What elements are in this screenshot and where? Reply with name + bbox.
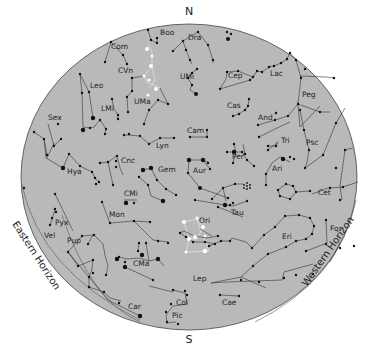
constellation-label-cam: Cam	[187, 126, 204, 135]
constellation-label-vel: Vel	[44, 231, 55, 240]
constellation-label-and: And	[258, 113, 273, 122]
constellation-label-per: Per	[232, 152, 245, 161]
constellation-label-boo: Boo	[160, 28, 175, 37]
constellation-label-car: Car	[128, 302, 142, 311]
constellation-label-cnc: Cnc	[121, 156, 135, 165]
constellation-label-eri: Eri	[282, 232, 292, 241]
constellation-label-pyx: Pyx	[55, 218, 69, 227]
constellation-label-peg: Peg	[302, 90, 316, 99]
constellation-label-mon: Mon	[109, 210, 125, 219]
constellation-label-aur: Aur	[193, 166, 207, 175]
constellation-label-leo: Leo	[90, 81, 104, 90]
constellation-label-dra: Dra	[188, 33, 201, 42]
constellation-label-lep: Lep	[193, 274, 207, 283]
constellation-label-cae: Cae	[222, 298, 237, 307]
star-chart: BooDraComCVnUMiLeoUMaLMiCepLacPegCasAndS…	[0, 0, 377, 345]
constellation-label-lac: Lac	[270, 69, 283, 78]
constellation-label-sex: Sex	[48, 113, 62, 122]
constellation-label-ari: Ari	[272, 164, 282, 173]
constellation-label-ori: Ori	[199, 216, 210, 225]
constellation-label-umi: UMi	[180, 72, 194, 81]
constellation-label-pup: Pup	[67, 236, 81, 245]
constellation-label-cas: Cas	[227, 101, 241, 110]
constellation-label-lmi: LMi	[101, 104, 114, 113]
constellation-label-tri: Tri	[280, 136, 290, 145]
constellation-label-lyn: Lyn	[156, 141, 169, 150]
constellation-label-psc: Psc	[306, 138, 318, 147]
constellation-label-com: Com	[111, 42, 128, 51]
constellation-label-col: Col	[176, 298, 188, 307]
constellation-label-tau: Tau	[230, 208, 244, 217]
constellation-label-pic: Pic	[172, 311, 183, 320]
constellation-label-cvn: CVn	[118, 66, 133, 75]
north-label: N	[185, 5, 193, 18]
constellation-label-uma: UMa	[134, 97, 151, 106]
constellation-label-hya: Hya	[67, 167, 82, 176]
constellation-label-cet: Cet	[318, 188, 331, 197]
constellation-label-gem: Gem	[158, 165, 176, 174]
constellation-label-cmi: CMi	[124, 189, 138, 198]
constellation-label-cma: CMa	[133, 259, 149, 268]
constellation-label-cep: Cep	[228, 71, 243, 80]
south-label: S	[186, 333, 193, 345]
